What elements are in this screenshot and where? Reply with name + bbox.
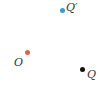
point-q-prime-label: Q′: [66, 2, 78, 13]
point-q-prime-dot: [60, 8, 65, 13]
point-o-dot: [25, 50, 30, 55]
point-o-label: O: [14, 57, 23, 68]
point-q-dot: [80, 67, 85, 72]
diagram-canvas: Q′ O Q: [0, 0, 100, 93]
point-q-label: Q: [87, 69, 96, 80]
